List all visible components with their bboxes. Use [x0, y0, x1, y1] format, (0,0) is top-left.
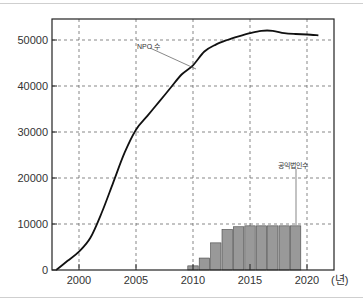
public-corp-annotation-label: 공익법인수 [278, 161, 309, 170]
bar [199, 258, 209, 270]
bar [233, 227, 243, 270]
bar-series-public-corporations [188, 226, 301, 270]
bar [245, 226, 255, 270]
y-tick-label: 20000 [17, 172, 48, 184]
chart: 20002005201020152020 0100002000030000400… [0, 0, 363, 305]
y-tick-label: 50000 [17, 34, 48, 46]
x-axis-unit-label: (년) [331, 274, 348, 286]
bar [222, 230, 232, 270]
y-axis: 01000020000300004000050000 [17, 34, 57, 276]
x-tick-label: 2015 [238, 274, 262, 286]
bar [279, 226, 289, 270]
npo-annotation-leader [150, 48, 196, 69]
y-tick-label: 40000 [17, 80, 48, 92]
y-tick-label: 30000 [17, 126, 48, 138]
bar [290, 226, 300, 270]
npo-annotation-label: NPO 수 [137, 43, 161, 51]
bar [268, 226, 278, 270]
bar [256, 226, 266, 270]
bar [211, 243, 221, 270]
x-tick-label: 2005 [124, 274, 148, 286]
y-tick-label: 10000 [17, 218, 48, 230]
y-tick-label: 0 [42, 264, 48, 276]
x-tick-label: 2010 [181, 274, 205, 286]
x-tick-label: 2000 [67, 274, 91, 286]
x-tick-label: 2020 [295, 274, 319, 286]
